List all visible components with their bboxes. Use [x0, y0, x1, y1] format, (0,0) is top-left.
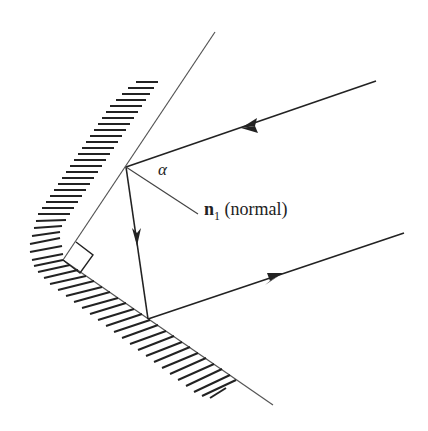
normal-vector-label: n1 (normal)	[204, 199, 288, 224]
angle-alpha-label: α	[158, 160, 167, 180]
upper-mirror-line	[63, 32, 215, 260]
normal-text: (normal)	[220, 199, 287, 219]
corner-reflector-diagram: α n1 (normal)	[0, 0, 428, 431]
internal-arrowhead-icon	[132, 228, 141, 246]
normal-vector-symbol: n	[204, 199, 214, 219]
lower-mirror-hatching	[34, 260, 236, 398]
right-angle-marker	[63, 242, 93, 273]
lower-mirror-line	[63, 260, 273, 405]
reflected-arrowhead-icon	[267, 273, 283, 281]
